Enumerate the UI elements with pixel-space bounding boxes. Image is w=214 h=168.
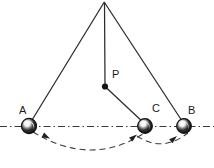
string-apex-to-A bbox=[29, 3, 104, 126]
ball-C bbox=[138, 119, 153, 134]
ball-B bbox=[177, 119, 192, 134]
pendulum-diagram: A C B P bbox=[0, 0, 214, 168]
swing-arc-group bbox=[33, 132, 188, 150]
string-group bbox=[29, 3, 184, 126]
swing-arc-A-to-C bbox=[33, 132, 143, 150]
label-A: A bbox=[19, 105, 26, 116]
bob-point-P bbox=[102, 83, 108, 89]
label-C: C bbox=[152, 103, 160, 114]
label-P: P bbox=[112, 69, 119, 80]
string-apex-to-P bbox=[105, 3, 106, 87]
string-apex-to-B bbox=[105, 3, 185, 125]
swing-arc-C-to-B bbox=[137, 133, 188, 144]
ball-A bbox=[21, 118, 36, 133]
label-B: B bbox=[188, 105, 195, 116]
string-P-to-C bbox=[105, 87, 145, 125]
arrowhead-group bbox=[42, 132, 179, 143]
diagram-canvas bbox=[0, 0, 214, 168]
